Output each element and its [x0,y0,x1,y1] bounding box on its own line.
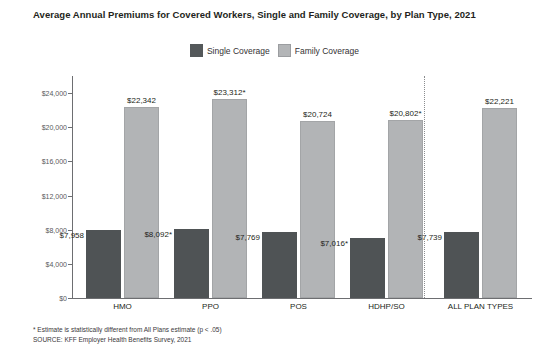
y-axis-tick [68,93,72,94]
bar-family-coverage[interactable]: $20,724 [300,121,335,298]
bar-group: $7,769$20,724 [262,76,335,298]
bar-family-coverage[interactable]: $20,802* [388,120,423,298]
footnote-source: SOURCE: KFF Employer Health Benefits Sur… [33,335,453,345]
legend-item-family-coverage[interactable]: Family Coverage [278,44,359,57]
bar-group: $7,958$22,342 [86,76,159,298]
bar-group: $7,739$22,221 [444,76,517,298]
bar-value-label-family: $22,342 [127,96,156,105]
chart-container: Average Annual Premiums for Covered Work… [0,0,549,362]
bar-value-label-single: $8,092* [144,230,172,239]
bar-value-label-single: $7,016* [320,239,348,248]
category-label-all-plan-types: ALL PLAN TYPES [448,302,513,311]
y-axis-tick [68,127,72,128]
y-axis-tick [68,161,72,162]
legend-label-single: Single Coverage [207,46,270,56]
footnotes: * Estimate is statistically different fr… [33,325,453,345]
legend-item-single-coverage[interactable]: Single Coverage [190,44,270,57]
y-axis-line [72,76,73,298]
bar-family-coverage[interactable]: $22,221 [482,108,517,298]
y-axis-tick [68,264,72,265]
y-axis-tick-label: $12,000 [42,192,67,199]
bar-value-label-single: $7,739 [418,233,442,242]
x-axis-line [72,298,532,299]
chart-legend: Single Coverage Family Coverage [0,44,549,57]
category-label-hdhp-so: HDHP/SO [368,302,404,311]
bar-value-label-family: $20,724 [303,110,332,119]
y-axis-tick-label: $20,000 [42,124,67,131]
bar-value-label-single: $7,769 [236,233,260,242]
y-axis-tick [68,196,72,197]
bar-value-label-family: $23,312* [213,88,245,97]
legend-swatch-family-icon [278,44,291,57]
all-plans-divider [424,76,425,298]
legend-label-family: Family Coverage [295,46,359,56]
bar-value-label-family: $22,221 [485,97,514,106]
y-axis-tick-label: $0 [59,295,67,302]
chart-title: Average Annual Premiums for Covered Work… [33,8,523,22]
bar-value-label-single: $7,958 [60,231,84,240]
y-axis-tick-label: $16,000 [42,158,67,165]
bar-single-coverage[interactable]: $7,016* [350,238,385,298]
bar-single-coverage[interactable]: $7,739 [444,232,479,298]
category-label-pos: POS [290,302,307,311]
bar-single-coverage[interactable]: $7,769 [262,232,297,298]
y-axis-tick-label: $4,000 [46,260,67,267]
bar-family-coverage[interactable]: $22,342 [124,107,159,298]
y-axis-tick-label: $24,000 [42,90,67,97]
plot-area: $0$4,000$8,000$12,000$16,000$20,000$24,0… [72,76,532,298]
bar-single-coverage[interactable]: $8,092* [174,229,209,298]
category-label-hmo: HMO [113,302,132,311]
bar-family-coverage[interactable]: $23,312* [212,99,247,298]
bar-group: $8,092*$23,312* [174,76,247,298]
category-label-ppo: PPO [202,302,219,311]
legend-swatch-single-icon [190,44,203,57]
y-axis-tick [68,298,72,299]
bar-group: $7,016*$20,802* [350,76,423,298]
footnote-estimate: * Estimate is statistically different fr… [33,325,453,335]
bar-value-label-family: $20,802* [389,109,421,118]
bar-single-coverage[interactable]: $7,958 [86,230,121,298]
